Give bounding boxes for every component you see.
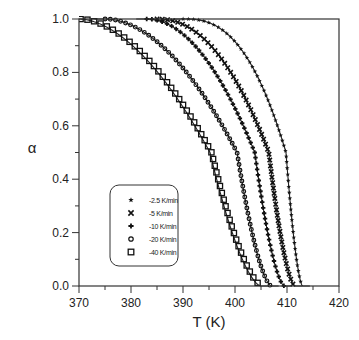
legend-label: -40 K/min	[149, 249, 177, 256]
y-tick-label: 0.6	[52, 119, 69, 133]
plus-marker-icon	[265, 227, 269, 231]
y-tick-label: 0.4	[52, 172, 69, 186]
cross-marker-icon	[185, 24, 189, 28]
plus-marker-icon	[238, 116, 242, 120]
y-tick-label: 1.0	[52, 12, 69, 26]
x-tick-label: 410	[277, 296, 297, 310]
plus-marker-icon	[221, 83, 225, 87]
star-marker-icon	[196, 18, 201, 22]
cross-marker-icon	[226, 66, 230, 70]
cross-marker-icon	[234, 79, 238, 83]
plus-marker-icon	[253, 156, 257, 160]
cross-marker-icon	[244, 98, 248, 102]
plus-marker-icon	[254, 161, 258, 165]
plus-marker-icon	[249, 140, 253, 144]
plus-marker-icon	[165, 22, 169, 26]
plus-marker-icon	[275, 269, 279, 273]
plus-marker-icon	[272, 259, 276, 263]
plus-marker-icon	[273, 264, 277, 268]
plus-marker-icon	[268, 243, 272, 247]
x-axis-label: T (K)	[192, 313, 225, 330]
y-tick-label: 0.8	[52, 65, 69, 79]
plus-marker-icon	[256, 173, 260, 177]
plus-marker-icon	[277, 274, 281, 278]
y-axis-label: α	[28, 139, 37, 156]
plus-marker-icon	[231, 102, 235, 106]
cross-marker-icon	[253, 117, 257, 121]
cross-marker-icon	[249, 108, 253, 112]
plus-marker-icon	[258, 189, 262, 193]
conversion-chart: 370380390400410420 0.00.20.40.60.81.0 T …	[0, 0, 359, 340]
plus-marker-icon	[244, 131, 248, 135]
plus-marker-icon	[267, 238, 271, 242]
plus-marker-icon	[260, 200, 264, 204]
cross-marker-icon	[228, 70, 232, 74]
cross-marker-icon	[239, 88, 243, 92]
legend-label: -20 K/min	[149, 236, 177, 243]
cross-marker-icon	[263, 142, 267, 146]
plus-marker-icon	[226, 92, 230, 96]
cross-marker-icon	[242, 93, 246, 97]
y-tick-label: 0.2	[52, 226, 69, 240]
plus-marker-icon	[223, 88, 227, 92]
plus-marker-icon	[264, 222, 268, 226]
y-tick-label: 0.0	[52, 279, 69, 293]
legend-label: -10 K/min	[149, 223, 177, 230]
plus-marker-icon	[240, 121, 244, 125]
plus-marker-icon	[269, 248, 273, 252]
star-marker-icon	[253, 69, 258, 73]
x-tick-label: 400	[225, 296, 245, 310]
cross-marker-icon	[259, 132, 263, 136]
legend-label: -5 K/min	[149, 210, 173, 217]
plus-marker-icon	[228, 97, 232, 101]
cross-marker-icon	[251, 112, 255, 116]
plus-marker-icon	[266, 232, 270, 236]
cross-marker-icon	[237, 84, 241, 88]
cross-marker-icon	[246, 103, 250, 107]
legend: -2.5 K/min-5 K/min-10 K/min-20 K/min-40 …	[110, 185, 178, 266]
plus-marker-icon	[235, 111, 239, 115]
cross-marker-icon	[206, 41, 210, 45]
y-axis-ticks: 0.00.20.40.60.81.0	[52, 12, 79, 293]
plus-marker-icon	[251, 145, 255, 149]
plus-marker-icon	[263, 216, 267, 220]
x-tick-label: 380	[121, 296, 141, 310]
cross-marker-icon	[265, 147, 269, 151]
plus-marker-icon	[257, 184, 261, 188]
star-marker-icon	[206, 20, 211, 24]
plus-marker-icon	[253, 150, 257, 154]
star-marker-icon	[255, 74, 260, 78]
x-tick-label: 390	[173, 296, 193, 310]
plus-marker-icon	[279, 279, 283, 283]
cross-marker-icon	[180, 22, 184, 26]
cross-marker-icon	[231, 75, 235, 79]
plus-marker-icon	[246, 136, 250, 140]
plus-marker-icon	[257, 178, 261, 182]
x-tick-label: 420	[329, 296, 349, 310]
cross-marker-icon	[219, 57, 223, 61]
cross-marker-icon	[223, 61, 227, 65]
plus-marker-icon	[242, 126, 246, 130]
cross-marker-icon	[257, 127, 261, 131]
plus-marker-icon	[261, 206, 265, 210]
x-tick-label: 370	[69, 296, 89, 310]
cross-marker-icon	[255, 122, 259, 126]
cross-marker-icon	[261, 137, 265, 141]
plus-marker-icon	[255, 167, 259, 171]
x-axis-ticks: 370380390400410420	[69, 286, 349, 310]
plus-marker-icon	[259, 194, 263, 198]
legend-label: -2.5 K/min	[149, 197, 178, 204]
plus-marker-icon	[233, 107, 237, 111]
cross-marker-icon	[190, 27, 194, 31]
star-marker-icon	[257, 78, 262, 82]
plus-marker-icon	[270, 253, 274, 257]
plus-marker-icon	[262, 211, 266, 215]
